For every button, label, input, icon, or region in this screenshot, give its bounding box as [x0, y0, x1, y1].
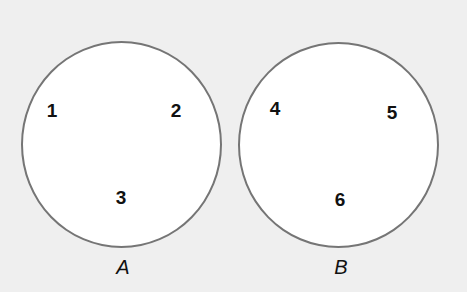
set-a-element-2: 2: [171, 101, 182, 120]
set-b-element-4: 4: [270, 99, 281, 118]
set-a-element-3: 3: [116, 188, 127, 207]
set-diagram: 1 2 3 A 4 5 6 B: [0, 0, 467, 292]
set-b-label: B: [334, 257, 347, 277]
set-b-element-6: 6: [335, 190, 346, 209]
set-b-element-5: 5: [387, 103, 398, 122]
set-a-element-1: 1: [47, 101, 58, 120]
set-a-label: A: [116, 257, 129, 277]
set-a-circle: [21, 41, 222, 248]
set-b-circle: [238, 42, 439, 248]
